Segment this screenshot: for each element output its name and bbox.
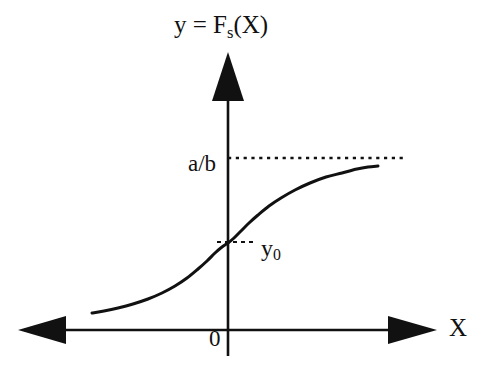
y-axis-title-prefix: y = F xyxy=(174,11,227,38)
y-axis-title-suffix: (X) xyxy=(233,11,268,38)
x-axis-label: X xyxy=(449,315,467,340)
y0-intercept-label: y0 xyxy=(261,236,281,263)
y0-label-prefix: y xyxy=(261,235,273,261)
x-axis-right-arrow-icon xyxy=(388,316,437,344)
x-axis-left-arrow-icon xyxy=(18,316,66,344)
asymptote-label: a/b xyxy=(188,152,216,175)
function-graph-figure: y = Fs(X) a/b y0 0 X xyxy=(0,0,481,376)
origin-label: 0 xyxy=(209,327,221,350)
function-curve xyxy=(92,166,378,313)
y-axis-title: y = Fs(X) xyxy=(174,12,268,41)
y-axis-up-arrow-icon xyxy=(212,52,244,101)
graph-canvas xyxy=(0,0,481,376)
y0-label-subscript: 0 xyxy=(273,246,281,263)
